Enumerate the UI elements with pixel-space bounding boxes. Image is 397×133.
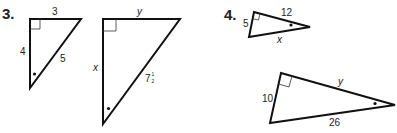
problem-3-number: 3. (2, 5, 15, 22)
triangle-3a: 3 4 5 (20, 6, 81, 88)
right-angle-marker (30, 19, 40, 29)
triangle-4a: 5 12 x (243, 7, 310, 45)
triangle-4b-long-leg-label: y (337, 76, 344, 87)
similar-triangles-figure: 3. 3 4 5 y x 7 1 2 4. 5 12 x 10 y 26 (0, 0, 397, 133)
triangle-4a-short-leg-label: 5 (243, 18, 249, 29)
triangle-3a-top-label: 3 (52, 6, 58, 17)
triangle-3b: y x 7 1 2 (92, 6, 180, 124)
triangle-3b-hypotenuse-frac-den: 2 (152, 78, 155, 84)
angle-dot-marker (107, 107, 110, 110)
triangle-3a-left-label: 4 (20, 46, 26, 57)
triangle-4b: 10 y 26 (262, 73, 395, 128)
triangle-4a-hypotenuse-label: x (276, 34, 283, 45)
triangle-4b-short-leg-label: 10 (262, 93, 274, 104)
triangle-4b-outline (270, 73, 395, 123)
triangle-4a-long-leg-label: 12 (281, 7, 293, 18)
right-angle-marker (103, 19, 116, 31)
triangle-3b-left-label: x (92, 62, 99, 73)
triangle-3b-top-label: y (136, 6, 143, 17)
angle-dot-marker (33, 72, 36, 75)
triangle-3b-hypotenuse-frac-num: 1 (152, 71, 155, 77)
angle-dot-marker (373, 102, 376, 105)
triangle-3b-hypotenuse-whole: 7 (145, 73, 151, 84)
triangle-3b-outline (103, 19, 180, 124)
angle-dot-marker (289, 23, 292, 26)
triangle-4b-hypotenuse-label: 26 (329, 117, 341, 128)
triangle-3a-hypotenuse-label: 5 (60, 53, 66, 64)
problem-4-number: 4. (224, 6, 237, 23)
